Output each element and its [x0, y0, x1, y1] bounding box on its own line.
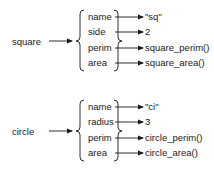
field-value: 2: [145, 26, 150, 37]
circle-right-brace: [114, 100, 122, 161]
field-label: side: [88, 26, 105, 37]
field-label: area: [88, 147, 107, 158]
field-label: name: [88, 101, 112, 112]
square-left-brace: [76, 10, 84, 71]
field-value: circle_area(): [145, 147, 198, 158]
field-label: radius: [88, 116, 114, 127]
object-label-square: square: [12, 36, 41, 47]
field-label: perim: [88, 42, 112, 53]
field-label: name: [88, 11, 112, 22]
field-value: 3: [145, 116, 150, 127]
object-label-circle: circle: [12, 126, 34, 137]
diagram-lines: [0, 0, 214, 171]
field-value: square_perim(): [145, 42, 209, 53]
field-value: circle_perim(): [145, 132, 203, 143]
field-label: area: [88, 57, 107, 68]
field-value: "sq": [145, 11, 162, 22]
circle-left-brace: [76, 100, 84, 161]
field-value: "ci": [145, 101, 159, 112]
square-right-brace: [114, 10, 122, 71]
field-value: square_area(): [145, 57, 205, 68]
field-label: perim: [88, 132, 112, 143]
